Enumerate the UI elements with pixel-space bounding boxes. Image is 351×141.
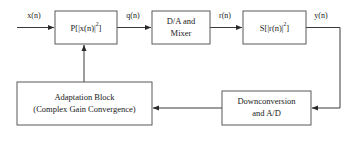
block-downconversion-label-line2: and A/D [252, 108, 281, 118]
block-da-mixer-label-line2: Mixer [171, 28, 192, 38]
block-adaptation-label-line1: Adaptation Block [54, 92, 115, 102]
block-amplifier[interactable]: S[|r(n)|2] [243, 11, 306, 44]
block-downconversion[interactable]: Downconversion and A/D [222, 91, 311, 125]
block-da-mixer-label-line1: D/A and [167, 16, 196, 26]
block-predistorter[interactable]: P[|x(n)|2] [55, 11, 117, 44]
signal-label-rf: r(n) [219, 11, 231, 20]
block-diagram-canvas: P[|x(n)|2] D/A and Mixer S[|r(n)|2] Adap… [0, 0, 351, 141]
signal-label-input: x(n) [27, 11, 41, 20]
block-da-mixer[interactable]: D/A and Mixer [152, 11, 210, 44]
signal-label-output: y(n) [314, 11, 328, 20]
block-downconversion-label-line1: Downconversion [237, 96, 296, 106]
block-adaptation-label-line2: (Complex Gain Convergence) [33, 104, 135, 114]
block-adaptation[interactable]: Adaptation Block (Complex Gain Convergen… [17, 82, 152, 125]
block-diagram-svg: P[|x(n)|2] D/A and Mixer S[|r(n)|2] Adap… [0, 0, 351, 141]
signal-label-predistorted: q(n) [126, 11, 140, 20]
